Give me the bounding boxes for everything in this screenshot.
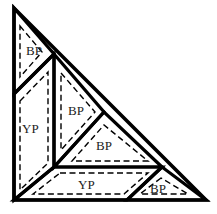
piece-label: BP [150, 181, 166, 196]
piece-label: YP [22, 121, 39, 136]
piece-label: YP [78, 177, 95, 192]
outer-triangle [14, 8, 206, 200]
quilt-diagram: BPYPBPBPYPBP [0, 0, 217, 214]
piece-label: BP [26, 43, 42, 58]
piece-outline [127, 167, 206, 200]
piece-corner-triangle: BP [127, 167, 206, 200]
piece-label: BP [96, 138, 112, 153]
piece-bottom-parallelogram: YP [14, 167, 162, 200]
piece-label: BP [68, 103, 84, 118]
